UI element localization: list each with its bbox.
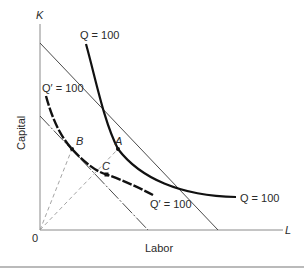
ray-origin-to-b (40, 149, 72, 230)
y-axis-title: Capital (15, 116, 27, 150)
point-a-marker (116, 147, 120, 151)
isoquant-q-prime-label-right: Q′ = 100 (150, 198, 192, 210)
point-b-label: B (76, 135, 83, 147)
y-axis-symbol: K (36, 9, 44, 21)
point-c-marker (105, 173, 109, 177)
origin-label: 0 (32, 232, 38, 244)
isoquant-q-prime-label-top: Q′ = 100 (42, 82, 84, 94)
isoquant-q-label-top: Q = 100 (80, 29, 119, 41)
point-c-label: C (102, 160, 110, 172)
x-axis-title: Labor (145, 242, 173, 254)
x-axis-symbol: L (285, 224, 291, 236)
isoquant-q-label-right: Q = 100 (240, 192, 279, 204)
isoquant-diagram: K L 0 Capital Labor A B C Q = 100 Q = 10… (0, 0, 304, 270)
point-b-marker (70, 147, 74, 151)
point-a-label: A (114, 135, 122, 147)
